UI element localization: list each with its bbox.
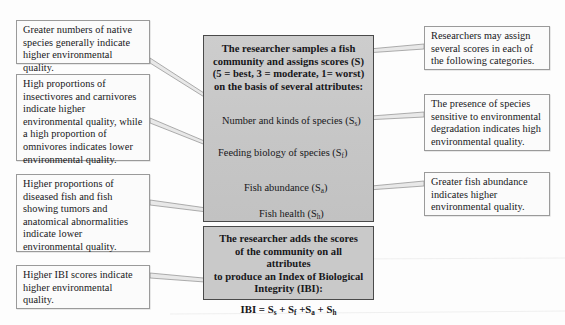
attr-label-3: Fish health (S [259, 208, 317, 219]
ibi-formula: IBI = Ss + Sf +Sa + Sh [204, 296, 373, 315]
diagram-canvas: The researcher samples a fish community … [0, 0, 565, 325]
header-line-1: The researcher samples a fish [222, 43, 356, 54]
ibi-line-4: Integrity (IBI): [254, 283, 323, 294]
ibi-line-1: The researcher adds the scores [219, 233, 358, 244]
callout-ibi-scores: Higher IBI scores indicate higher enviro… [16, 265, 150, 309]
header-line-4: on the basis of several attributes: [214, 81, 363, 92]
ibi-box-text: The researcher adds the scores of the co… [204, 227, 373, 296]
callout-fish-health: Higher proportions of diseased fish and … [16, 174, 150, 252]
attr-label-1: Feeding biology of species (S [218, 147, 342, 158]
term-sub-3: h [333, 309, 337, 317]
attr-close-0: ) [357, 115, 360, 126]
central-box-header: The researcher samples a fish community … [204, 36, 373, 93]
formula-term-2: Sa [305, 303, 315, 315]
header-line-2: community and assigns scores (S) [213, 56, 364, 67]
callout-sensitive-species: The presence of species sensitive to env… [424, 94, 550, 151]
attr-close-3: ) [320, 208, 323, 219]
term-base-3: S [326, 303, 332, 315]
formula-lhs: IBI = [240, 303, 267, 315]
ibi-line-3: to produce an Index of Biological [214, 271, 364, 282]
term-base-0: S [268, 303, 274, 315]
attr-label-2: Fish abundance (S [244, 182, 321, 193]
ibi-line-2: of the community on all attributes [235, 246, 342, 270]
formula-term-1: Sf [288, 303, 296, 315]
attribute-number-kinds-of-species: Number and kinds of species (Ss) [222, 115, 361, 127]
central-ibi-box: The researcher adds the scores of the co… [203, 226, 374, 300]
formula-term-0: Ss [268, 303, 277, 315]
callout-fish-abundance: Greater fish abundance indicates higher … [424, 172, 550, 216]
central-sampling-box: The researcher samples a fish community … [203, 35, 374, 222]
callout-feeding-biology: High proportions of insectivores and car… [16, 74, 150, 161]
attr-sub-3: h [317, 213, 321, 221]
attribute-fish-abundance: Fish abundance (Sa) [244, 182, 327, 194]
attribute-fish-health: Fish health (Sh) [259, 208, 324, 220]
attr-label-0: Number and kinds of species (S [222, 115, 354, 126]
attr-sub-2: a [321, 187, 324, 195]
attr-sub-0: s [354, 120, 357, 128]
attribute-feeding-biology: Feeding biology of species (Sf) [218, 147, 347, 159]
callout-several-scores: Researchers may assign several scores in… [424, 26, 550, 70]
attr-sub-1: f [342, 152, 344, 160]
formula-term-3: Sh [326, 303, 336, 315]
term-sub-2: a [311, 309, 315, 317]
attr-close-2: ) [324, 182, 327, 193]
attr-close-1: ) [344, 147, 347, 158]
header-line-3: (5 = best, 3 = moderate, 1= worst) [213, 68, 364, 79]
callout-native-species: Greater numbers of native species genera… [16, 20, 150, 64]
